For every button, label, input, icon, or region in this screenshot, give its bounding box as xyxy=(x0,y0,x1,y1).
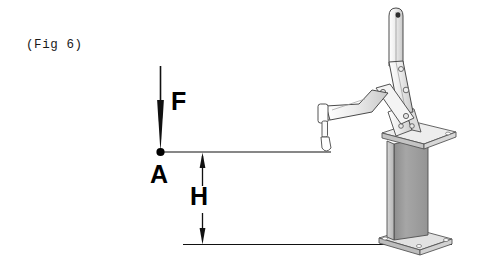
column-left-face xyxy=(387,141,394,240)
point-a-marker xyxy=(156,148,164,156)
base-plate-bolt-hole-left xyxy=(382,237,387,240)
clamp-arm-body xyxy=(326,90,388,120)
height-dimension-down-arrowhead xyxy=(200,228,206,245)
clamp-handle[interactable] xyxy=(389,8,403,66)
technical-diagram-svg xyxy=(0,0,479,263)
base-bracket-rivet-lower-right xyxy=(410,124,415,129)
pedestal-assembly xyxy=(379,122,456,255)
toggle-clamp-assembly xyxy=(318,8,421,151)
force-arrow-F xyxy=(157,66,164,152)
handle-hole xyxy=(396,12,401,18)
column-front-face xyxy=(394,136,428,240)
figure-container: (Fig 6) xyxy=(0,0,479,263)
point-label-A: A xyxy=(150,162,168,187)
pedestal-column xyxy=(387,136,428,240)
clamp-arm xyxy=(326,90,388,120)
upper-link-rivet-mid xyxy=(403,87,409,93)
top-plate-bolt-hole-right xyxy=(446,132,451,135)
spindle-tip xyxy=(321,137,331,151)
height-label-H: H xyxy=(190,184,208,209)
spindle-collar xyxy=(318,104,328,123)
base-plate-bolt-hole-front xyxy=(416,245,421,248)
upper-link-rivet-top xyxy=(399,67,404,72)
force-arrow-head xyxy=(157,100,164,152)
base-plate-bolt-hole-right xyxy=(443,239,448,242)
pivot-rivet-lower xyxy=(403,113,408,118)
spindle-shaft xyxy=(322,121,328,137)
height-dimension-up-arrowhead xyxy=(200,153,206,169)
force-label-F: F xyxy=(171,89,186,114)
